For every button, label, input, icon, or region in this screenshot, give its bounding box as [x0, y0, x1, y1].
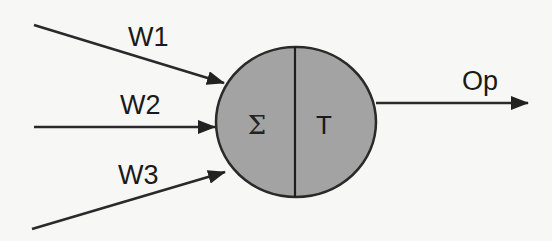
output-label: Op [462, 66, 498, 96]
summation-symbol: Σ [248, 110, 266, 140]
input-label-w2: W2 [120, 90, 161, 120]
neuron-diagram: Σ T W1 W2 W3 Op [0, 0, 552, 241]
transfer-symbol: T [316, 110, 332, 140]
neuron-node: Σ T [216, 47, 376, 197]
input-label-w3: W3 [118, 160, 159, 190]
input-label-w1: W1 [128, 22, 169, 52]
